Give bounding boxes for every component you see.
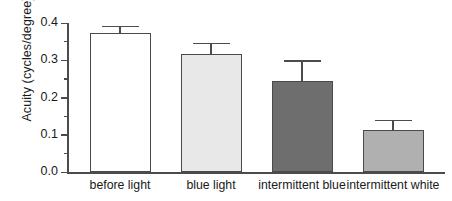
bar [272, 81, 333, 172]
y-tick-label: 0.1 [24, 127, 58, 141]
error-bar-cap [284, 60, 321, 62]
error-bar-cap [375, 120, 412, 122]
x-axis-line [67, 172, 445, 174]
x-category-label: intermittent white [338, 178, 448, 192]
y-tick-label: 0.2 [24, 90, 58, 104]
bar [181, 54, 242, 172]
y-tick-label: 0.3 [24, 52, 58, 66]
bar-chart-figure: Acuity (cycles/degree) 0.00.10.20.30.4 b… [0, 0, 452, 201]
error-bar-stem [301, 60, 303, 80]
bar [90, 33, 151, 172]
y-tick-label: 0.4 [24, 15, 58, 29]
error-bar-stem [210, 43, 212, 54]
bar [363, 130, 424, 172]
error-bar-cap [102, 26, 139, 28]
y-axis-line [67, 23, 69, 173]
error-bar-cap [193, 43, 230, 45]
y-tick-label: 0.0 [24, 164, 58, 178]
